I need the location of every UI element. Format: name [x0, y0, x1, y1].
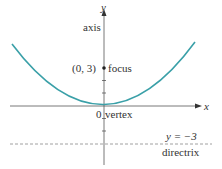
origin-label: 0	[96, 108, 102, 120]
parabola-curve	[12, 42, 195, 105]
axis-label: axis	[83, 21, 101, 33]
focus-point	[102, 66, 106, 70]
x-axis-arrow-icon	[195, 104, 202, 109]
parabola-diagram	[0, 0, 222, 169]
y-axis-label: y	[101, 1, 106, 13]
focus-label: focus	[108, 62, 132, 74]
directrix-equation-text: y = −3	[166, 130, 197, 142]
focus-coordinate-label: (0, 3)	[72, 62, 96, 74]
x-axis-label: x	[204, 100, 209, 112]
directrix-equation-label: y = −3	[166, 130, 197, 142]
directrix-label: directrix	[162, 146, 199, 158]
vertex-label: vertex	[105, 108, 132, 120]
